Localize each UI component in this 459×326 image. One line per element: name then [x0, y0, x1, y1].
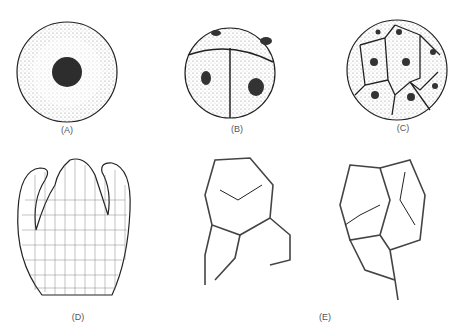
label-b: (B)	[231, 124, 243, 134]
label-c: (C)	[397, 123, 410, 133]
panel-c-cluster	[347, 20, 447, 120]
panel-e-walled-cells	[205, 158, 425, 300]
panel-b-cells	[185, 28, 275, 118]
nucleus-icon	[52, 57, 82, 87]
label-d: (D)	[72, 312, 85, 322]
panel-d-shoot-apex	[18, 159, 130, 295]
figure-canvas	[0, 0, 459, 326]
label-a: (A)	[61, 125, 73, 135]
panel-a-cell	[17, 22, 117, 122]
label-e: (E)	[319, 312, 331, 322]
